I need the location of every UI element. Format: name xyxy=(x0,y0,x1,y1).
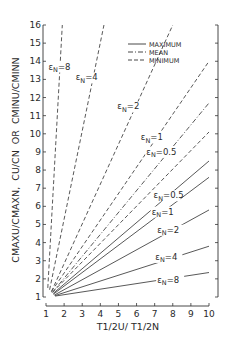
x-tick-label: 9 xyxy=(188,309,194,319)
y-tick-label: 2 xyxy=(35,274,41,284)
y-tick-label: 14 xyxy=(30,56,42,66)
series-line xyxy=(53,161,209,293)
legend-mean-label: MEAN xyxy=(149,49,168,57)
y-axis-label-text: CMAXU/CMAXN, CU/CN OR CMINU/CMINN xyxy=(10,57,21,262)
x-axis-label: T1/2U/ T1/2N xyxy=(96,321,159,332)
x-tick-label: 3 xyxy=(79,309,85,319)
y-tick-label: 11 xyxy=(30,111,41,121)
series-line xyxy=(54,210,209,295)
x-tick-label: 2 xyxy=(61,309,67,319)
x-tick-label: 8 xyxy=(170,309,176,319)
x-tick-label: 10 xyxy=(203,309,215,319)
x-tick-label: 6 xyxy=(134,309,140,319)
legend-max-label: MAXIMUM xyxy=(149,41,181,49)
y-tick-label: 12 xyxy=(30,93,41,103)
x-tick-label: 1 xyxy=(43,309,49,319)
y-tick-label: 16 xyxy=(30,20,42,30)
y-tick-label: 5 xyxy=(35,219,41,229)
y-tick-label: 9 xyxy=(35,147,41,157)
chart: 1234567891011121314151612345678910 εN=8ε… xyxy=(0,0,229,346)
series-line xyxy=(52,132,209,292)
y-tick-label: 1 xyxy=(35,292,41,302)
series-line xyxy=(55,246,209,295)
annotations: εN=8εN=4εN=2εN=1εN=0.5εN=0.5εN=1εN=2εN=4… xyxy=(47,62,184,288)
legend: MAXIMUM MEAN MINIMUM xyxy=(128,41,181,65)
series-line xyxy=(51,61,209,291)
y-tick-label: 8 xyxy=(35,165,41,175)
x-tick-label: 5 xyxy=(116,309,122,319)
y-tick-label: 3 xyxy=(35,256,41,266)
y-tick-label: 15 xyxy=(30,38,41,48)
x-tick-label: 7 xyxy=(152,309,158,319)
series-line xyxy=(52,103,209,292)
y-tick-label: 4 xyxy=(35,238,41,248)
y-tick-label: 7 xyxy=(35,183,41,193)
y-axis-label: CMAXU/CMAXN, CU/CN OR CMINU/CMINN xyxy=(10,57,21,262)
y-tick-label: 10 xyxy=(30,129,42,139)
y-tick-label: 13 xyxy=(30,74,41,84)
legend-min-label: MINIMUM xyxy=(149,57,179,65)
x-tick-label: 4 xyxy=(97,309,103,319)
y-tick-label: 6 xyxy=(35,201,41,211)
